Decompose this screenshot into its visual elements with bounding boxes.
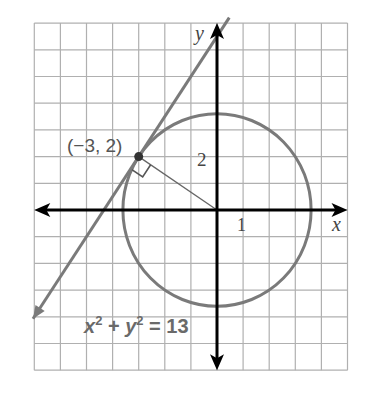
tangent-point-dot (134, 152, 143, 161)
x-tick-label: 1 (237, 215, 246, 235)
eq-plus: + (102, 315, 125, 337)
eq-y: y (124, 315, 137, 337)
y-axis-label: y (193, 22, 204, 45)
coordinate-plane: y x 1 2 (−3, 2) x2 + y2 = 13 (0, 0, 365, 400)
eq-x: x (83, 315, 96, 337)
eq-rhs: = 13 (144, 315, 189, 337)
point-label: (−3, 2) (67, 135, 122, 156)
x-axis-label: x (331, 213, 341, 235)
y-tick-label: 2 (197, 149, 207, 170)
eq-exp-2: 2 (136, 313, 143, 328)
eq-exp-1: 2 (95, 313, 102, 328)
equation-label: x2 + y2 = 13 (83, 313, 189, 337)
